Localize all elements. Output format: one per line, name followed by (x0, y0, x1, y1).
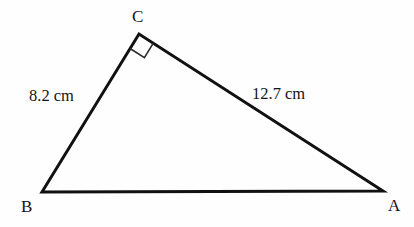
triangle-figure (0, 0, 414, 227)
triangle-outline (42, 34, 383, 192)
side-length-label-bc: 8.2 cm (29, 88, 74, 105)
side-length-label-ca: 12.7 cm (252, 86, 305, 103)
vertex-label-b: B (21, 198, 32, 215)
vertex-label-c: C (132, 8, 143, 25)
vertex-label-a: A (388, 197, 400, 214)
